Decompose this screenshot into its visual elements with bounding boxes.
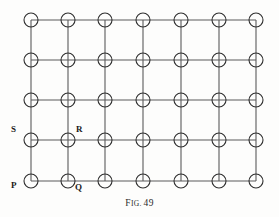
lattice-grid-diagram: [0, 0, 279, 217]
figure-caption: FIG.49: [0, 198, 279, 208]
point-label-p: P: [11, 181, 17, 190]
caption-prefix-small: IG.: [131, 199, 142, 208]
point-label-s: S: [11, 125, 16, 134]
figure-container: PQRS FIG.49: [0, 0, 279, 217]
point-label-r: R: [76, 125, 83, 134]
point-label-q: Q: [75, 183, 82, 192]
caption-number: 49: [144, 198, 154, 208]
